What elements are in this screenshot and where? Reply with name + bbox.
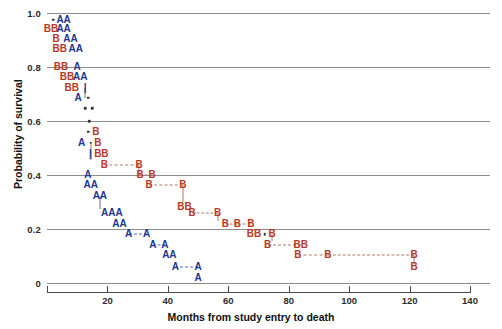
censor-dot <box>84 107 87 110</box>
censor-dot <box>87 131 90 134</box>
censor-dot <box>263 233 266 236</box>
marker-a: A <box>125 229 132 239</box>
x-tick-label: 80 <box>269 295 309 306</box>
marker-b: B <box>222 219 229 229</box>
marker-b: B <box>410 250 417 260</box>
marker-b: BB <box>94 149 108 159</box>
marker-a: A <box>78 138 85 148</box>
x-tick <box>470 286 471 293</box>
gridline <box>47 283 490 284</box>
marker-a: A <box>194 262 201 272</box>
gridline <box>47 13 490 14</box>
survival-chart: AABBAABAABBAABBABBAABB|ABAB|BBBBABBAABBA… <box>0 0 502 329</box>
y-tick-label: 0 <box>11 278 41 289</box>
marker-b: B <box>324 250 331 260</box>
x-axis-title: Months from study entry to death <box>0 311 502 323</box>
y-tick-label: 0.2 <box>11 224 41 235</box>
censor-dot <box>52 19 55 22</box>
marker-b: B <box>234 219 241 229</box>
marker-a: A <box>172 262 179 272</box>
dashed-connector <box>104 165 139 166</box>
y-axis-title: Probability of survival <box>12 79 24 189</box>
marker-a: AA <box>68 44 82 54</box>
marker-b: B <box>294 250 301 260</box>
marker-b: B <box>94 138 101 148</box>
censor-dot <box>87 97 90 100</box>
x-tick-label: 20 <box>87 295 127 306</box>
x-tick-label: 100 <box>329 295 369 306</box>
y-tick-label: 0.8 <box>11 62 41 73</box>
marker-tick: | <box>89 149 92 159</box>
marker-tick: | <box>84 83 87 93</box>
x-axis-line <box>47 292 470 293</box>
x-tick-label: 120 <box>390 295 430 306</box>
censor-dot <box>89 141 92 144</box>
marker-b: B <box>101 160 108 170</box>
censor-dot <box>88 120 91 123</box>
marker-b: B <box>214 208 221 218</box>
dashed-connector <box>328 254 414 255</box>
marker-b: B <box>188 208 195 218</box>
censor-dot <box>91 107 94 110</box>
marker-b: B <box>410 262 417 272</box>
marker-a: A <box>194 273 201 283</box>
marker-a: AA <box>93 191 107 201</box>
marker-b: BB <box>247 229 261 239</box>
x-tick-label: 40 <box>148 295 188 306</box>
marker-b: B <box>179 180 186 190</box>
gridline <box>47 67 490 68</box>
marker-a: AAA <box>101 208 123 218</box>
marker-a: AA <box>162 250 176 260</box>
gridline <box>47 121 490 122</box>
x-tick-label: 60 <box>208 295 248 306</box>
marker-b: B <box>136 170 143 180</box>
y-tick-label: 1.0 <box>11 8 41 19</box>
marker-b: B <box>145 180 152 190</box>
marker-b: BB <box>52 44 66 54</box>
gridline <box>47 175 490 176</box>
marker-b: B <box>264 240 271 250</box>
marker-b: B <box>92 127 99 137</box>
marker-a: A <box>149 240 156 250</box>
dashed-connector <box>149 185 183 186</box>
marker-a: A <box>74 93 81 103</box>
x-tick-label: 140 <box>450 295 490 306</box>
marker-a: AA <box>84 180 98 190</box>
